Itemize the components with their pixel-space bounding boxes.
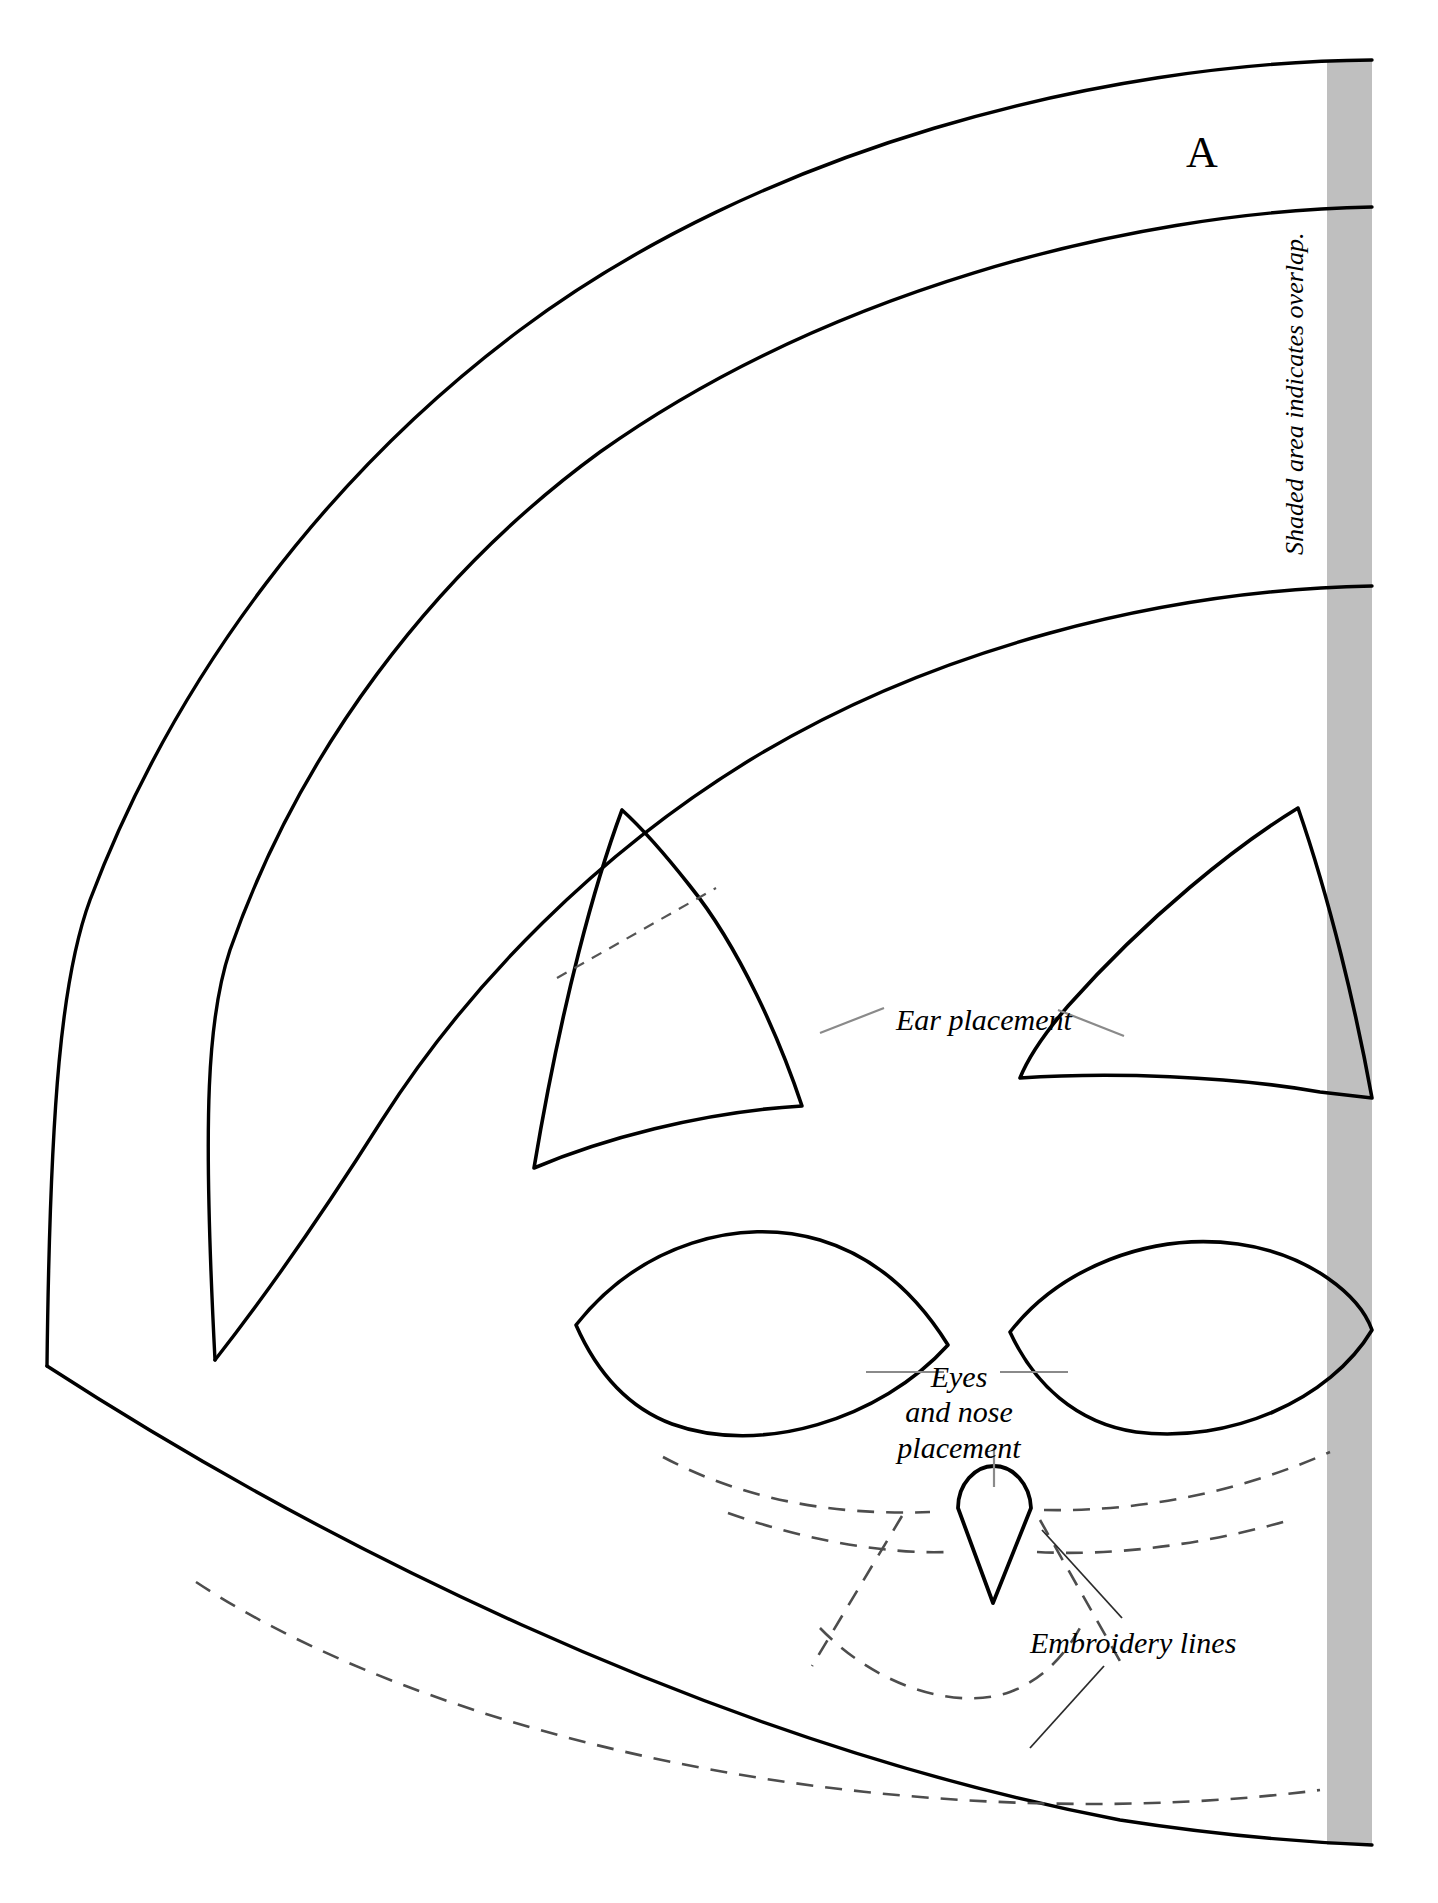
- overlap-note-label: Shaded area indicates overlap.: [1280, 232, 1311, 555]
- inner-placement-arc: [215, 586, 1372, 1360]
- ear-label-leader-left: [820, 1008, 884, 1033]
- embroidery-whisker-lower-left: [728, 1513, 946, 1552]
- embroidery-lines-label: Embroidery lines: [1030, 1625, 1236, 1660]
- embroidery-whisker-upper-left: [663, 1457, 930, 1513]
- eyes-nose-label-line-1: Eyes: [864, 1359, 1054, 1394]
- embroidery-whisker-upper-right: [1044, 1452, 1330, 1510]
- embroidery-chin-arc: [196, 1582, 1320, 1804]
- embroidery-cheek-left-diagonal: [812, 1516, 902, 1666]
- bottom-edge-arc: [47, 1366, 1372, 1845]
- pattern-drawing: [0, 0, 1438, 1903]
- overlap-shaded-strip: [1327, 60, 1372, 1845]
- embroidery-whisker-lower-right: [1037, 1520, 1290, 1553]
- middle-seam-arc: [208, 207, 1372, 1360]
- pattern-piece-letter: A: [1186, 127, 1218, 178]
- eyes-and-nose-placement-label: Eyes and nose placement: [864, 1359, 1054, 1465]
- ear-placement-label: Ear placement: [896, 1002, 1072, 1037]
- left-ear-outline: [534, 810, 802, 1168]
- embroidery-label-leader-lower: [1030, 1666, 1104, 1748]
- eyes-nose-label-line-3: placement: [864, 1430, 1054, 1465]
- eyes-nose-label-line-2: and nose: [864, 1394, 1054, 1429]
- pattern-sheet: A Shaded area indicates overlap. Ear pla…: [0, 0, 1438, 1903]
- outer-cutting-arc: [47, 60, 1372, 1366]
- right-ear-outline: [1020, 808, 1372, 1098]
- right-eye-outline: [1010, 1242, 1372, 1434]
- embroidery-label-leader-upper: [1042, 1530, 1122, 1618]
- left-ear-fold-dashed-line: [557, 888, 716, 978]
